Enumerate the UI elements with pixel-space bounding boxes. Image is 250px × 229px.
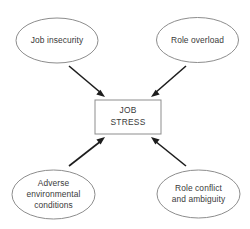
node-role-conflict-and-ambiguity[interactable]: Role conflict and ambiguity — [157, 170, 240, 218]
job-stress-label-line2: STRESS — [110, 117, 145, 127]
arrow-role-overload-to-job-stress — [151, 66, 186, 97]
node-job-insecurity[interactable]: Job insecurity — [16, 18, 98, 63]
job-insecurity-label: Job insecurity — [31, 35, 84, 45]
role-conflict-and-ambiguity-label-line2: and ambiguity — [172, 194, 226, 204]
adverse-environmental-conditions-label-line1: Adverse — [38, 178, 70, 188]
node-job-stress[interactable]: JOB STRESS — [95, 100, 161, 134]
job-stress-label-line1: JOB — [119, 105, 136, 115]
role-overload-label: Role overload — [171, 35, 224, 45]
adverse-environmental-conditions-label-line3: conditions — [34, 200, 73, 210]
node-adverse-environmental-conditions[interactable]: Adverse environmental conditions — [12, 170, 95, 219]
node-role-overload[interactable]: Role overload — [157, 18, 239, 63]
role-conflict-and-ambiguity-label-line1: Role conflict — [175, 183, 222, 193]
arrow-adverse-environmental-conditions-to-job-stress — [69, 137, 105, 166]
adverse-environmental-conditions-label-line2: environmental — [27, 189, 81, 199]
arrow-role-conflict-and-ambiguity-to-job-stress — [151, 137, 186, 166]
job-stress-diagram: Job insecurity Role overload JOB STRESS … — [0, 0, 250, 229]
arrow-job-insecurity-to-job-stress — [69, 66, 105, 97]
diagram-canvas: Job insecurity Role overload JOB STRESS … — [0, 0, 250, 229]
